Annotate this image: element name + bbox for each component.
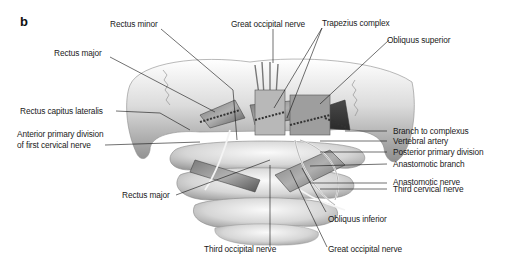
label-third-cervical-nerve: Third cervical nerve	[393, 185, 463, 194]
label-obliquus-superior: Obliquus superior	[387, 36, 450, 45]
label-rectus-minor: Rectus minor	[110, 20, 158, 29]
label-great-occipital-nerve-top: Great occipital nerve	[231, 20, 305, 29]
panel-letter: b	[20, 14, 28, 29]
label-third-occipital-nerve: Third occipital nerve	[204, 245, 276, 254]
label-anterior-primary-division-line1: Anterior primary division	[17, 130, 104, 139]
label-branch-to-complexus: Branch to complexus	[393, 127, 469, 136]
label-obliquus-inferior: Obliquus inferior	[328, 215, 387, 224]
anatomy-figure: b Rectus minor Great occipital nerve Tra…	[0, 0, 507, 266]
label-rectus-major-upper: Rectus major	[54, 49, 102, 58]
label-anastomotic-branch: Anastomotic branch	[393, 160, 465, 169]
label-rectus-capitus-lateralis: Rectus capitus lateralis	[20, 107, 103, 116]
label-great-occipital-nerve-bottom: Great occipital nerve	[328, 245, 402, 254]
label-rectus-major-lower: Rectus major	[122, 191, 170, 200]
label-trapezius-complex: Trapezius complex	[322, 19, 390, 28]
label-anterior-primary-division-line2: of first cervical nerve	[17, 141, 91, 150]
label-vertebral-artery: Vertebral artery	[393, 137, 448, 146]
label-posterior-primary-division: Posterior primary division	[393, 148, 484, 157]
